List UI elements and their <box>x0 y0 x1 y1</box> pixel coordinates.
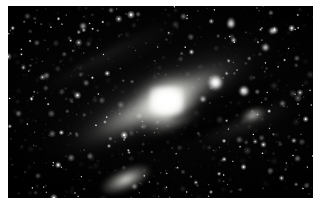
screenshot-root <box>0 0 313 205</box>
astronomy-photo-plate <box>8 6 313 198</box>
starfield <box>8 6 313 198</box>
plate-bottom-margin <box>8 198 313 205</box>
